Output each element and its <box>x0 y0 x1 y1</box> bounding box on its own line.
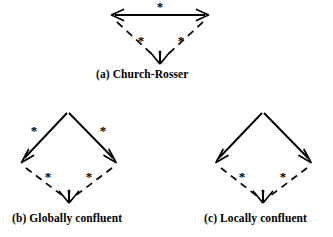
figure-canvas <box>0 0 333 237</box>
caption-panel-a: (a) Church-Rosser <box>96 69 189 81</box>
c-lower-right-edge <box>270 168 307 196</box>
c-upper-left-edge <box>216 113 262 163</box>
b-upper-left-edge <box>22 113 68 163</box>
panel-a-church-rosser <box>112 10 209 64</box>
star-label-c-left-lower: * <box>239 170 246 183</box>
b-meet-arrowheads <box>60 191 79 203</box>
b-lower-right-edge <box>75 168 112 196</box>
confluence-figure: * * * * * * * * * (a) Church-Rosser (b) … <box>0 0 333 237</box>
c-upper-right-edge <box>264 113 311 163</box>
star-label-a-top: * <box>157 0 164 13</box>
b-upper-right-edge <box>69 113 116 163</box>
star-label-a-left-lower: * <box>138 34 145 47</box>
star-label-a-right-lower: * <box>178 34 185 47</box>
star-label-b-right-lower: * <box>86 170 93 183</box>
caption-panel-c: (c) Locally confluent <box>204 213 307 225</box>
star-label-c-right-lower: * <box>280 170 287 183</box>
a-left-descent <box>117 22 155 57</box>
caption-panel-b: (b) Globally confluent <box>12 213 122 225</box>
star-label-b-left-upper: * <box>31 124 38 137</box>
c-meet-arrowheads <box>254 191 273 203</box>
a-meet-arrowheads <box>151 52 170 64</box>
star-label-b-right-upper: * <box>100 124 107 137</box>
star-label-b-left-lower: * <box>45 170 52 183</box>
panel-c-locally-confluent <box>216 113 311 203</box>
